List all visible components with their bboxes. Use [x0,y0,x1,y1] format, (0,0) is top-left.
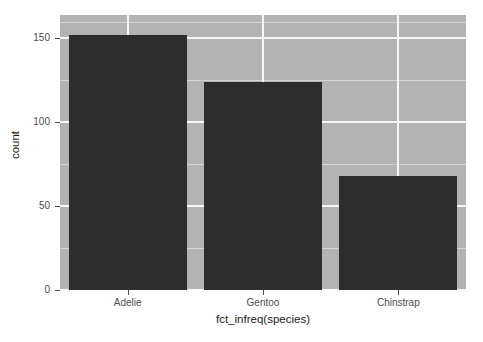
plot-panel [60,15,466,290]
y-tick-label: 150 [22,33,55,43]
bar-gentoo [204,82,322,290]
x-axis-tick-labels: AdelieGentooChinstrap [60,296,466,312]
x-tick-label-adelie: Adelie [114,296,142,309]
x-axis-title: fct_infreq(species) [60,313,466,325]
x-tick-label-gentoo: Gentoo [247,296,280,309]
x-axis-tick-marks [60,290,466,295]
y-axis-tick-labels: 150100500 [22,0,55,342]
x-tick-mark [398,290,399,295]
y-tick-label: 100 [22,117,55,127]
y-axis-title-text: count [9,131,21,159]
x-tick-label-chinstrap: Chinstrap [377,296,420,309]
bar-chinstrap [339,176,457,290]
x-tick-mark [263,290,264,295]
y-tick-label: 50 [22,201,55,211]
bar-chart: count 150100500 AdelieGentooChinstrap fc… [0,0,483,342]
y-tick-label: 0 [22,285,55,295]
x-tick-mark [128,290,129,295]
bar-adelie [69,35,187,290]
